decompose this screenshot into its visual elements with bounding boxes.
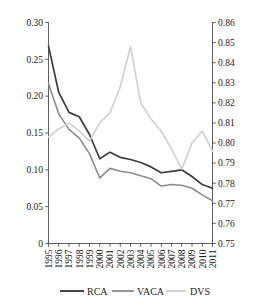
x-tick-label: 2002 [116, 249, 126, 268]
right-tick-label: 0.75 [218, 239, 235, 249]
left-tick-label: 0.15 [26, 128, 43, 138]
right-tick-label: 0.85 [218, 38, 235, 48]
x-tick-label: 2007 [167, 249, 177, 268]
x-tick-label: 2001 [105, 249, 115, 268]
right-tick-label: 0.84 [218, 58, 235, 68]
x-tick-label: 2006 [157, 249, 167, 268]
left-tick-label: 0 [38, 239, 43, 249]
legend-label-vaca: VACA [137, 286, 165, 297]
legend-item-rca[interactable]: RCA [60, 286, 108, 297]
right-tick-label: 0.78 [218, 179, 235, 189]
left-tick-label: 0.20 [26, 91, 43, 101]
x-tick-label: 1996 [54, 249, 64, 268]
right-tick-label: 0.83 [218, 78, 235, 88]
legend: RCAVACADVS [60, 286, 210, 297]
x-tick-label: 2005 [146, 249, 156, 268]
x-tick-label: 1998 [75, 249, 85, 268]
legend-label-rca: RCA [87, 286, 108, 297]
right-tick-label: 0.80 [218, 138, 235, 148]
right-tick-label: 0.82 [218, 98, 235, 108]
right-tick-label: 0.86 [218, 18, 235, 28]
right-tick-label: 0.77 [218, 199, 235, 209]
series-group [49, 46, 213, 201]
right-tick-label: 0.76 [218, 219, 235, 229]
x-tick-label: 2003 [126, 249, 136, 268]
x-tick-label: 2011 [208, 249, 218, 268]
left-tick-label: 0.05 [26, 202, 43, 212]
legend-item-vaca[interactable]: VACA [112, 286, 165, 297]
right-axis-ticks: 0.750.760.770.780.790.800.810.820.830.84… [213, 18, 235, 249]
x-tick-label: 2009 [187, 249, 197, 268]
right-tick-label: 0.81 [218, 118, 235, 128]
legend-item-dvs[interactable]: DVS [166, 286, 210, 297]
dual-axis-line-chart: 00.050.100.150.200.250.300.750.760.770.7… [0, 0, 261, 306]
series-line-vaca [49, 84, 213, 201]
series-line-rca [49, 46, 213, 188]
left-axis-ticks: 00.050.100.150.200.250.30 [26, 18, 48, 249]
left-tick-label: 0.25 [26, 55, 43, 65]
chart-figure: 00.050.100.150.200.250.300.750.760.770.7… [0, 0, 261, 306]
x-tick-label: 1997 [64, 249, 74, 268]
series-line-dvs [49, 47, 213, 170]
left-tick-label: 0.30 [26, 18, 43, 28]
left-tick-label: 0.10 [26, 165, 43, 175]
x-tick-label: 2004 [136, 249, 146, 268]
x-tick-label: 2000 [95, 249, 105, 268]
right-tick-label: 0.79 [218, 158, 235, 168]
legend-label-dvs: DVS [190, 286, 210, 297]
x-tick-label: 1995 [44, 249, 54, 268]
x-tick-label: 2008 [177, 249, 187, 268]
x-tick-label: 2010 [198, 249, 208, 268]
x-tick-label: 1999 [85, 249, 95, 268]
x-axis-ticks: 1995199619971998199920002001200220032004… [44, 244, 218, 269]
